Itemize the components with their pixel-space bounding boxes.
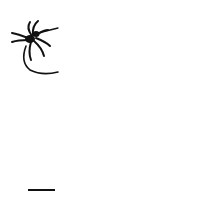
weaving-illustration xyxy=(0,0,202,213)
spider-icon xyxy=(12,21,58,74)
